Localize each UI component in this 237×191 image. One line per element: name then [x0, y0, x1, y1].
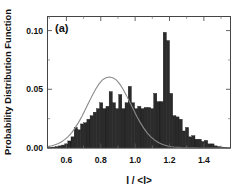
- histogram-bar: [195, 139, 198, 148]
- x-tick-label: 1.2: [164, 155, 176, 165]
- histogram-bar: [166, 41, 169, 148]
- histogram-bar: [138, 106, 141, 148]
- histogram-bar: [208, 144, 211, 148]
- x-axis-title: I / <I>: [126, 175, 152, 186]
- histogram-bar: [109, 92, 112, 148]
- histogram-bar: [179, 119, 182, 148]
- histogram-bar: [173, 116, 176, 148]
- histogram-bar: [125, 103, 128, 148]
- probability-distribution-chart: 0.60.81.01.21.4 0.000.050.10 (a) I / <I>…: [0, 0, 237, 191]
- y-tick-label: 0.00: [26, 143, 43, 153]
- chart-figure: 0.60.81.01.21.4 0.000.050.10 (a) I / <I>…: [0, 0, 237, 191]
- histogram-bar: [198, 139, 201, 148]
- histogram-bar: [90, 116, 93, 148]
- histogram-bar: [176, 117, 179, 148]
- histogram-bar: [106, 106, 109, 148]
- histogram-bar: [112, 103, 115, 148]
- histogram-bar: [84, 123, 87, 148]
- x-tick-label: 0.8: [95, 155, 107, 165]
- y-axis-title: Probability Distribution Function: [2, 9, 13, 155]
- panel-label: (a): [55, 22, 69, 34]
- histogram-bar: [147, 107, 150, 148]
- x-tick-label: 0.6: [60, 155, 72, 165]
- histogram-bar: [93, 112, 96, 148]
- x-tick-label: 1.4: [198, 155, 210, 165]
- histogram-bar: [103, 109, 106, 148]
- histogram-bar: [96, 109, 99, 148]
- histogram-bar: [150, 109, 153, 148]
- histogram-bar: [211, 144, 214, 148]
- histogram-bar: [163, 32, 166, 148]
- histogram-bar: [182, 131, 185, 148]
- histogram-bar: [185, 127, 188, 148]
- histogram-bar: [189, 137, 192, 148]
- y-tick-label: 0.05: [26, 84, 43, 94]
- histogram-bar: [81, 124, 84, 148]
- histogram-bar: [77, 130, 80, 148]
- x-tick-label: 1.0: [129, 155, 141, 165]
- histogram-bar: [68, 141, 71, 148]
- histogram-bar: [205, 140, 208, 148]
- histogram-bar: [87, 119, 90, 148]
- histogram-bar: [116, 109, 119, 148]
- y-tick-label: 0.10: [26, 26, 43, 36]
- histogram-bar: [122, 109, 125, 148]
- histogram-bar: [157, 102, 160, 148]
- histogram-bar: [160, 102, 163, 148]
- histogram-bar: [119, 95, 122, 148]
- histogram-bar: [100, 103, 103, 148]
- histogram-bar: [192, 136, 195, 148]
- histogram-bar: [170, 93, 173, 148]
- histogram-bar: [71, 137, 74, 148]
- histogram-bar: [144, 107, 147, 148]
- histogram-bar: [74, 127, 77, 148]
- histogram-bar: [128, 86, 131, 148]
